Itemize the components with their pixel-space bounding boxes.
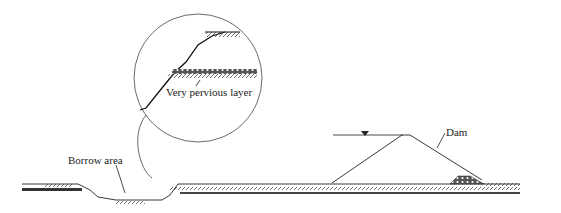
ground-profile [22,184,520,204]
cross-section-drawing [0,0,561,213]
label-dam: Dam [446,126,467,138]
label-borrow-area: Borrow area [68,154,123,166]
dam [332,131,520,186]
label-pervious-layer: Very pervious layer [166,86,252,98]
diagram-canvas: Very pervious layer Borrow area Dam [0,0,561,213]
